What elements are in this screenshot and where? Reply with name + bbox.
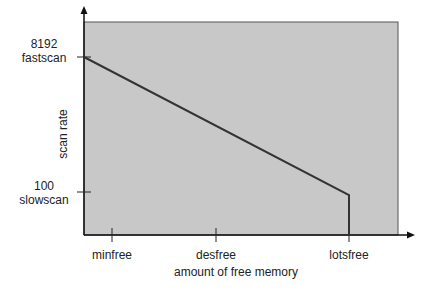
x-axis-arrow-icon [407,232,415,239]
minfree-label: minfree [82,248,142,262]
lotsfree-label: lotsfree [319,248,379,262]
fastscan-name-label: fastscan [14,51,74,65]
slowscan-name-label: slowscan [14,193,74,207]
x-axis-title: amount of free memory [156,265,316,279]
y-axis-arrow-icon [81,6,88,14]
slowscan-value-label: 100 [14,179,74,193]
desfree-label: desfree [186,248,246,262]
fastscan-value-label: 8192 [14,37,74,51]
plot-area [84,22,398,235]
y-axis-title: scan rate [56,94,70,174]
